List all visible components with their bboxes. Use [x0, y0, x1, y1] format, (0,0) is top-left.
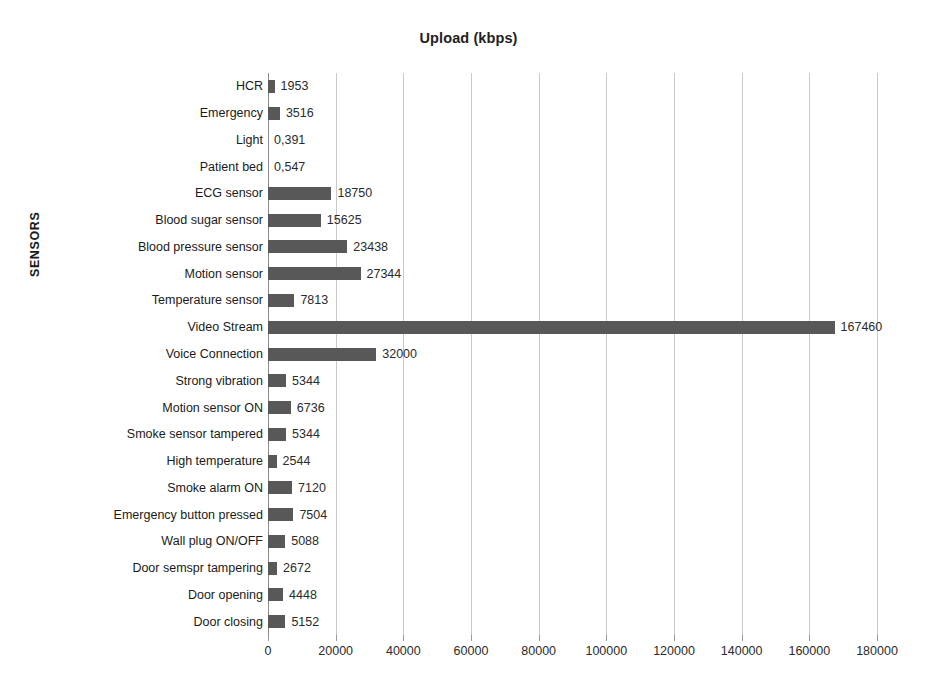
bar [268, 401, 291, 414]
x-axis-tick-label: 160000 [788, 645, 830, 658]
gridline [742, 73, 743, 635]
bar [268, 428, 286, 441]
bar [268, 374, 286, 387]
bar-value-label: 5344 [292, 428, 320, 441]
bar-value-label: 3516 [286, 107, 314, 120]
category-label: Door closing [5, 616, 263, 629]
category-label: Light [5, 134, 263, 147]
x-axis-tick-label: 20000 [318, 645, 353, 658]
x-axis-tick-mark [539, 635, 540, 641]
bar-value-label: 1953 [281, 80, 309, 93]
bar-value-label: 0,547 [274, 161, 305, 174]
category-label: Smoke sensor tampered [5, 428, 263, 441]
bar [268, 615, 285, 628]
category-label: Temperature sensor [5, 294, 263, 307]
bar [268, 535, 285, 548]
bar [268, 187, 331, 200]
bar [268, 348, 376, 361]
gridline [674, 73, 675, 635]
bar [268, 508, 293, 521]
x-axis-tick-label: 120000 [653, 645, 695, 658]
bar [268, 107, 280, 120]
bar-value-label: 5152 [291, 616, 319, 629]
plot-area: 195335160,3910,5471875015625234382734478… [268, 73, 877, 635]
x-axis-tick-label: 80000 [521, 645, 556, 658]
category-label: Patient bed [5, 161, 263, 174]
bar [268, 267, 361, 280]
bar [268, 562, 277, 575]
x-axis-tick-label: 60000 [454, 645, 489, 658]
category-label: Door semspr tampering [5, 562, 263, 575]
x-axis-tick-label: 180000 [856, 645, 898, 658]
x-axis-tick-mark [877, 635, 878, 641]
x-axis-tick-label: 40000 [386, 645, 421, 658]
bar-value-label: 27344 [367, 268, 402, 281]
bar [268, 80, 275, 93]
bar-value-label: 6736 [297, 402, 325, 415]
bar-value-label: 23438 [353, 241, 388, 254]
x-axis-tick-mark [606, 635, 607, 641]
chart-title: Upload (kbps) [0, 30, 937, 46]
category-label: Voice Connection [5, 348, 263, 361]
bar-value-label: 32000 [382, 348, 417, 361]
bar [268, 214, 321, 227]
category-label: Strong vibration [5, 375, 263, 388]
bar-value-label: 0,391 [274, 134, 305, 147]
bar [268, 588, 283, 601]
category-label: Blood pressure sensor [5, 241, 263, 254]
category-label: ECG sensor [5, 187, 263, 200]
bar-value-label: 15625 [327, 214, 362, 227]
bar-value-label: 4448 [289, 589, 317, 602]
gridline [539, 73, 540, 635]
category-label: Door opening [5, 589, 263, 602]
gridline [809, 73, 810, 635]
category-label: Motion sensor ON [5, 402, 263, 415]
category-label: Smoke alarm ON [5, 482, 263, 495]
bar [268, 481, 292, 494]
x-axis-tick-mark [742, 635, 743, 641]
category-label: High temperature [5, 455, 263, 468]
category-label: HCR [5, 80, 263, 93]
x-axis-tick-label: 0 [265, 645, 272, 658]
category-label: Video Stream [5, 321, 263, 334]
bar-value-label: 7813 [300, 294, 328, 307]
bar [268, 321, 835, 334]
bar-value-label: 2672 [283, 562, 311, 575]
x-axis: 0200004000060000800001000001200001400001… [268, 635, 877, 675]
bar-value-label: 5344 [292, 375, 320, 388]
bar-value-label: 18750 [337, 187, 372, 200]
category-label: Emergency button pressed [5, 509, 263, 522]
bar-value-label: 167460 [841, 321, 883, 334]
bar [268, 240, 347, 253]
bar-value-label: 7504 [299, 509, 327, 522]
x-axis-tick-label: 140000 [721, 645, 763, 658]
gridline [877, 73, 878, 635]
bar-value-label: 2544 [283, 455, 311, 468]
x-axis-tick-mark [336, 635, 337, 641]
category-label: Wall plug ON/OFF [5, 535, 263, 548]
bar [268, 455, 277, 468]
x-axis-tick-mark [809, 635, 810, 641]
category-label: Blood sugar sensor [5, 214, 263, 227]
bar-value-label: 5088 [291, 535, 319, 548]
x-axis-tick-mark [403, 635, 404, 641]
x-axis-tick-mark [268, 635, 269, 641]
x-axis-tick-label: 100000 [585, 645, 627, 658]
x-axis-tick-mark [674, 635, 675, 641]
x-axis-tick-mark [471, 635, 472, 641]
category-axis-labels: HCREmergencyLightPatient bedECG sensorBl… [5, 73, 263, 635]
category-label: Emergency [5, 107, 263, 120]
category-label: Motion sensor [5, 268, 263, 281]
bar-value-label: 7120 [298, 482, 326, 495]
bar [268, 294, 294, 307]
bar-chart: Upload (kbps) SENSORS HCREmergencyLightP… [0, 0, 937, 697]
gridline [471, 73, 472, 635]
gridline [606, 73, 607, 635]
